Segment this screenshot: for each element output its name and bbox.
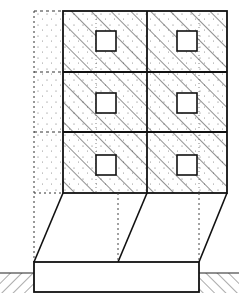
panel-grid	[63, 11, 227, 193]
elevation-diagram	[0, 0, 239, 300]
foundation-footing	[34, 262, 199, 292]
sloped-transition	[34, 193, 227, 262]
window-r3-c2	[177, 155, 197, 175]
window-r1-c2	[177, 31, 197, 51]
dashed-side-column	[34, 11, 63, 262]
window-r1-c1	[96, 31, 116, 51]
window-r3-c1	[96, 155, 116, 175]
ground-right	[199, 273, 239, 293]
window-r2-c2	[177, 93, 197, 113]
diagram-svg	[0, 0, 239, 300]
ground-left	[0, 273, 34, 293]
window-r2-c1	[96, 93, 116, 113]
